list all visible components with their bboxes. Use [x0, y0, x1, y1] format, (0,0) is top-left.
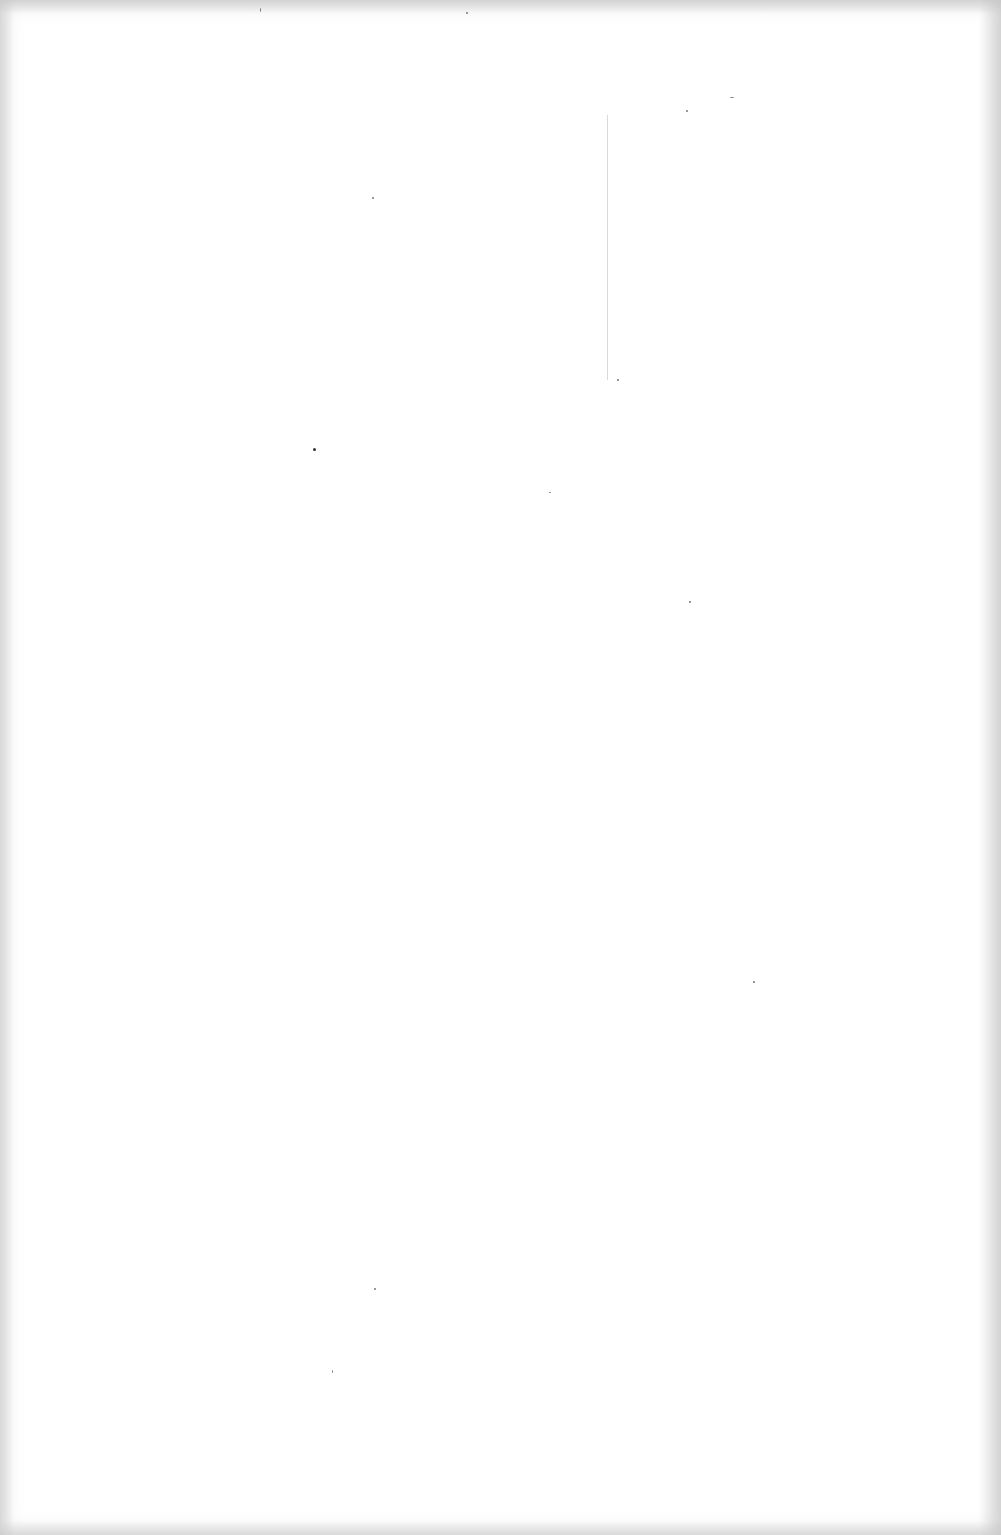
- speck: [617, 379, 619, 381]
- speck: [260, 8, 261, 12]
- speck: [549, 492, 551, 493]
- faint-vertical-line: [607, 115, 608, 380]
- speck: [689, 601, 691, 603]
- speck: [374, 1288, 376, 1290]
- page-edge-top: [0, 0, 1001, 14]
- page-edge-right: [979, 0, 1001, 1535]
- blank-scanned-page: [0, 0, 1001, 1535]
- speck: [372, 197, 374, 199]
- speck: [686, 110, 688, 112]
- page-edge-bottom: [0, 1521, 1001, 1535]
- speck: [332, 1370, 333, 1373]
- speck: [466, 12, 468, 14]
- speck: [313, 448, 316, 451]
- page-edge-left: [0, 0, 14, 1535]
- speck: [730, 97, 734, 98]
- speck: [753, 981, 755, 983]
